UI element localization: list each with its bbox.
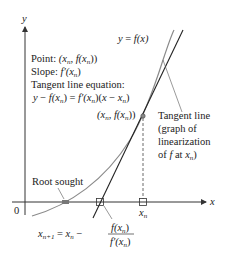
xn-tick-label: xn	[138, 207, 148, 220]
x-axis-label: x	[209, 196, 215, 207]
svg-text:Slope: f′(xn): Slope: f′(xn)	[31, 66, 81, 79]
svg-text:f(xn): f(xn)	[111, 222, 130, 235]
svg-text:xn+1 = xn −: xn+1 = xn −	[37, 228, 82, 241]
newton-formula: xn+1 = xn − f(xn) f′(xn)	[37, 222, 134, 249]
curve-label: y = f(x)	[117, 33, 149, 45]
svg-text:(graph of: (graph of	[158, 123, 197, 135]
svg-text:Tangent line: Tangent line	[158, 110, 210, 121]
newton-method-diagram: y x 0 Point: (xn, f(xn)) Slope: f′(xn) T…	[0, 0, 226, 263]
root-label: Root sought	[32, 176, 83, 187]
tangent-label-leader	[163, 60, 182, 112]
root-marker	[62, 200, 69, 204]
root-leader	[58, 188, 64, 199]
svg-text:of f at xn): of f at xn)	[158, 149, 197, 162]
tangent-eq-title: Tangent line equation:	[31, 79, 125, 90]
svg-text:linearization: linearization	[158, 136, 211, 147]
svg-text:y − f(xn) = f′(xn)(x − xn): y − f(xn) = f′(xn)(x − xn)	[32, 92, 130, 105]
origin-label: 0	[14, 205, 19, 216]
point-label: (xn, f(xn))	[97, 109, 136, 122]
formula-leader	[104, 206, 112, 219]
tangent-point-marker	[141, 114, 145, 118]
tangent-line-label: Tangent line (graph of linearization of …	[158, 110, 211, 162]
svg-text:Point: (xn, f(xn)): Point: (xn, f(xn))	[31, 53, 98, 66]
svg-text:f′(xn): f′(xn)	[110, 236, 131, 249]
annotation-block: Point: (xn, f(xn)) Slope: f′(xn) Tangent…	[31, 53, 130, 105]
y-axis-label: y	[21, 13, 27, 24]
